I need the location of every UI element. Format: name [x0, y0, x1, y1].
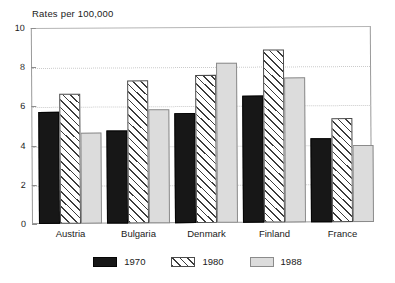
x-label-france: France: [328, 228, 358, 239]
bars-layer: [31, 26, 372, 224]
legend-item-1970: 1970: [93, 256, 145, 267]
bar-bulgaria-1980: [127, 80, 149, 223]
bar-group-bulgaria: [106, 27, 170, 223]
legend-item-1980: 1980: [171, 256, 223, 267]
bar-finland-1970: [242, 95, 264, 223]
bar-group-france: [310, 26, 374, 222]
hatched-swatch: [171, 257, 195, 267]
light-gray-swatch: [250, 257, 274, 267]
bar-france-1970: [310, 138, 332, 222]
bar-austria-1988: [80, 132, 102, 223]
bar-bulgaria-1970: [106, 130, 128, 223]
bar-austria-1970: [38, 112, 60, 224]
chart-title: Rates per 100,000: [32, 8, 114, 19]
bar-denmark-1970: [174, 113, 196, 223]
legend-label-1970: 1970: [124, 256, 145, 267]
legend-label-1988: 1988: [281, 256, 302, 267]
legend-item-1988: 1988: [250, 256, 302, 267]
x-label-austria: Austria: [56, 228, 86, 239]
bar-finland-1988: [284, 77, 306, 222]
y-axis-label-2: 2: [21, 180, 26, 190]
y-axis-label-6: 6: [20, 101, 25, 111]
bar-group-finland: [242, 26, 306, 222]
bar-group-austria: [38, 28, 102, 224]
y-axis-label-4: 4: [20, 141, 25, 151]
bar-bulgaria-1988: [148, 109, 170, 223]
x-label-denmark: Denmark: [187, 228, 226, 239]
y-axis-label-0: 0: [21, 219, 26, 229]
bar-denmark-1988: [216, 63, 238, 223]
y-axis-label-10: 10: [15, 23, 25, 33]
y-tick-0: [32, 224, 37, 225]
x-axis-category-labels: AustriaBulgariaDenmarkFinlandFrance: [32, 228, 372, 244]
legend-label-1980: 1980: [202, 256, 223, 267]
solid-black-swatch: [93, 257, 117, 267]
bar-chart: Rates per 100,000 0246810 AustriaBulgari…: [0, 0, 395, 283]
x-label-finland: Finland: [259, 228, 290, 239]
y-axis-label-8: 8: [20, 62, 25, 72]
bar-austria-1980: [59, 93, 81, 223]
bar-france-1980: [331, 118, 353, 222]
x-label-bulgaria: Bulgaria: [121, 228, 156, 239]
bar-group-denmark: [174, 27, 238, 223]
bar-finland-1980: [263, 49, 285, 223]
bar-denmark-1980: [195, 75, 217, 223]
bar-france-1988: [353, 145, 374, 223]
chart-legend: 197019801988: [0, 256, 395, 267]
